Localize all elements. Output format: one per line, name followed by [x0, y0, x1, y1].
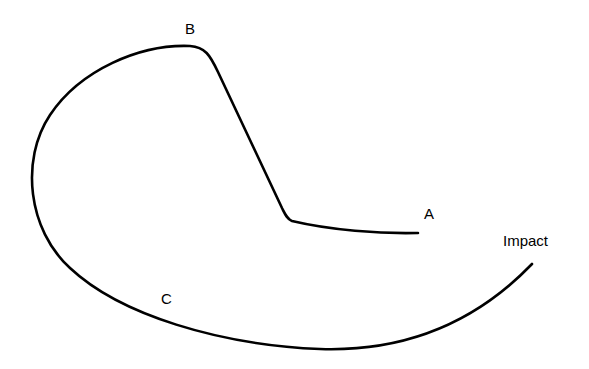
point-b-label: B — [185, 21, 195, 36]
trajectory-path — [32, 46, 532, 349]
trajectory-diagram — [0, 0, 589, 369]
point-a-label: A — [424, 206, 434, 221]
point-c-label: C — [161, 291, 172, 306]
impact-label: Impact — [503, 233, 548, 248]
